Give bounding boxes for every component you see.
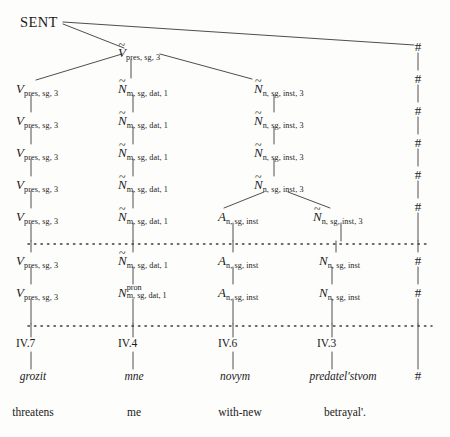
node-n4: N~m, sg, dat, 1 [118, 176, 168, 192]
node-n5: N~m, sg, dat, 1 [118, 208, 168, 224]
tilde-diacritic: ~ [119, 39, 126, 51]
node-v2: Vpres, sg, 3 [16, 112, 58, 128]
node-v1: Vpres, sg, 3 [16, 80, 58, 96]
symbol-n: N~ [254, 114, 263, 127]
boundary-hash-9: # [415, 369, 422, 382]
subscript-features: n, sg, inst, 3 [263, 153, 304, 162]
subscript-features: n, sg, inst [328, 261, 361, 270]
subscript-features: m, sg, dat, 1 [127, 217, 168, 226]
subscript-features: m, sg, dat, 1 [127, 185, 168, 194]
node-a3: An, sg, inst [218, 284, 258, 300]
node-v-tilde-top: V~pres, sg, 3 [118, 44, 160, 60]
edge-branch-to-ntilde [288, 192, 330, 208]
subscript-features: m, sg, dat, 1 [127, 89, 168, 98]
symbol-a: A [218, 210, 226, 223]
tilde-diacritic: ~ [119, 107, 126, 119]
symbol-a: A [218, 286, 226, 299]
boundary-hash-1: # [415, 40, 422, 53]
node-b2: Nn, sg, inst [319, 284, 360, 300]
boundary-hash-7: # [415, 254, 422, 267]
subscript-features: pres, sg, 3 [24, 293, 58, 302]
edge-vtilde-to-ntilde-right [160, 54, 252, 79]
symbol-v: V~ [118, 46, 126, 59]
node-v3: Vpres, sg, 3 [16, 144, 58, 160]
subscript-features: m, sg, dat, 1 [127, 121, 168, 130]
node-v7: Vpres, sg, 3 [16, 284, 58, 300]
boundary-hash-8: # [415, 286, 422, 299]
subscript-features: n, sg, inst [226, 293, 259, 302]
rule-label-iv7: IV.7 [16, 338, 35, 350]
rule-label-iv4: IV.4 [118, 338, 137, 350]
symbol-n: N [319, 254, 328, 267]
rule-label-iv3: IV.3 [317, 338, 336, 350]
subscript-features: pres, sg, 3 [24, 261, 58, 270]
symbol-v: V [16, 146, 24, 159]
node-n2: N~m, sg, dat, 1 [118, 112, 168, 128]
node-r2: N~n, sg, inst, 3 [254, 112, 304, 128]
symbol-v: V [16, 82, 24, 95]
symbol-v: V [16, 178, 24, 191]
subscript-features: m, sg, dat, 1 [127, 153, 168, 162]
subscript-features: pres, sg, 3 [126, 53, 160, 62]
subscript-features: pres, sg, 3 [24, 217, 58, 226]
node-n3: N~m, sg, dat, 1 [118, 144, 168, 160]
subscript-features: pres, sg, 3 [24, 121, 58, 130]
tilde-diacritic: ~ [119, 203, 126, 215]
tilde-diacritic: ~ [314, 203, 321, 215]
boundary-hash-3: # [415, 104, 422, 117]
superscript-subscript-features: pronm, sg, dat, 1 [127, 284, 167, 301]
word-form-predatelstvom: predatel'stvom [309, 371, 376, 383]
symbol-v: V [16, 286, 24, 299]
node-a2: An, sg, inst [218, 252, 258, 268]
symbol-v: V [16, 254, 24, 267]
tilde-diacritic: ~ [255, 75, 262, 87]
symbol-n: N~ [118, 146, 127, 159]
edge-sent-to-hash [63, 22, 414, 45]
node-r4: N~n, sg, inst, 3 [254, 176, 304, 192]
symbol-n: N~ [118, 82, 127, 95]
boundary-hash-4: # [415, 136, 422, 149]
subscript-features: n, sg, inst [328, 293, 361, 302]
node-n1: N~m, sg, dat, 1 [118, 80, 168, 96]
subscript-features: n, sg, inst, 3 [263, 89, 304, 98]
symbol-n: N~ [254, 82, 263, 95]
subscript-features: n, sg, inst, 3 [263, 121, 304, 130]
node-n7-pron: Npronm, sg, dat, 1 [118, 283, 167, 300]
rule-label-iv6: IV.6 [218, 338, 237, 350]
symbol-n: N~ [118, 114, 127, 127]
subscript-features: pres, sg, 3 [24, 185, 58, 194]
tilde-diacritic: ~ [119, 247, 126, 259]
symbol-n: N~ [254, 178, 263, 191]
gloss-with-new: with-new [218, 407, 261, 419]
derivation-tree-diagram: SENT V~pres, sg, 3 Vpres, sg, 3 Vpres, s… [0, 0, 450, 437]
subscript-features: pres, sg, 3 [24, 89, 58, 98]
boundary-hash-2: # [415, 72, 422, 85]
node-a1: An, sg, inst [218, 208, 258, 224]
subscript-features: pres, sg, 3 [24, 153, 58, 162]
symbol-n: N~ [313, 210, 322, 223]
edge-vtilde-to-v [36, 54, 122, 80]
tilde-diacritic: ~ [255, 107, 262, 119]
subscript-features: n, sg, inst [226, 261, 259, 270]
gloss-me: me [127, 407, 141, 419]
subscript-features: n, sg, inst, 3 [263, 185, 304, 194]
boundary-hash-6: # [415, 200, 422, 213]
subscript-features: n, sg, inst [226, 217, 259, 226]
symbol-a: A [218, 254, 226, 267]
tilde-diacritic: ~ [255, 171, 262, 183]
subscript-features: m, sg, dat, 1 [127, 293, 167, 301]
node-r3: N~n, sg, inst, 3 [254, 144, 304, 160]
node-sent-root: SENT [20, 15, 58, 30]
tilde-diacritic: ~ [119, 139, 126, 151]
node-b1: Nn, sg, inst [319, 252, 360, 268]
node-v6: Vpres, sg, 3 [16, 252, 58, 268]
subscript-features: n, sg, inst, 3 [322, 217, 363, 226]
symbol-v: V [16, 114, 24, 127]
symbol-n: N~ [118, 254, 127, 267]
edge-branch-to-a [224, 192, 264, 208]
symbol-n: N [118, 287, 127, 300]
symbol-n: N [319, 286, 328, 299]
node-v4: Vpres, sg, 3 [16, 176, 58, 192]
edge-sent-to-vtilde [63, 24, 124, 48]
tilde-diacritic: ~ [119, 171, 126, 183]
